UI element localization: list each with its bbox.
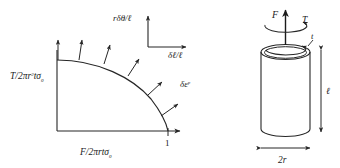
- normal-vector-4: [128, 59, 139, 76]
- cylinder-schematic: F T t ℓ 2r: [261, 9, 330, 165]
- inset-horizontal-label: δℓ/ℓ: [168, 50, 182, 60]
- thickness-label: t: [311, 31, 314, 41]
- yield-locus-curve: [57, 60, 168, 131]
- figure-svg: T/2πr2tσ0 F/2πrtσ0 1 δεp rδθ/ℓ δℓ/ℓ: [0, 0, 340, 168]
- axial-force-label: F: [271, 9, 279, 20]
- x-axis-label: F/2πrtσ0: [79, 147, 112, 159]
- normal-vector-3: [104, 45, 110, 64]
- yield-locus-plot: T/2πr2tσ0 F/2πrtσ0 1 δεp: [10, 40, 191, 159]
- normal-vector-6: [161, 104, 178, 116]
- torque-arc-rim: [266, 46, 306, 55]
- normal-vector-5: [148, 82, 162, 95]
- plastic-strain-increment-label: δεp: [180, 79, 191, 89]
- figure-container: T/2πr2tσ0 F/2πrtσ0 1 δεp rδθ/ℓ δℓ/ℓ: [0, 0, 340, 168]
- y-axis-label: T/2πr2tσ0: [10, 71, 44, 83]
- normality-vectors: [58, 40, 178, 116]
- diameter-label: 2r: [278, 155, 287, 165]
- cylinder-bottom-arc: [261, 129, 310, 137]
- normal-vector-2: [79, 40, 82, 60]
- strain-rate-inset-axes: rδθ/ℓ δℓ/ℓ: [113, 13, 186, 60]
- inset-vertical-label: rδθ/ℓ: [113, 13, 132, 23]
- length-label: ℓ: [326, 86, 330, 96]
- torque-label: T: [302, 15, 308, 25]
- x-tick-label-one: 1: [165, 138, 170, 148]
